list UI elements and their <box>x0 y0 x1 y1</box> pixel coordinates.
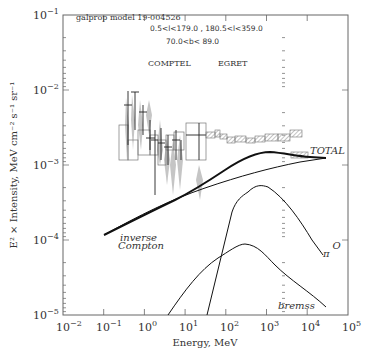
l-range-annotation: 0.5<l<179.0 , 180.5<l<359.0 <box>150 24 263 33</box>
svg-text:10−1: 10−1 <box>96 319 122 334</box>
plot-frame <box>63 15 348 315</box>
svg-text:10−2: 10−2 <box>33 82 59 97</box>
svg-text:104: 104 <box>301 319 320 334</box>
svg-text:10−4: 10−4 <box>33 232 59 247</box>
inverse-compton-label-2: Compton <box>118 240 164 251</box>
b-range-annotation: 70.0<b< 89.0 <box>166 37 219 46</box>
x-axis-title: Energy, MeV <box>173 337 239 348</box>
energy-spectrum-chart: 10−2 10−1 100 101 102 103 104 105 10−5 1… <box>0 0 365 352</box>
y-tick-labels: 10−5 10−4 10−3 10−2 10−1 <box>33 7 59 322</box>
inverse-compton-curve <box>104 158 326 235</box>
y-axis-title: E² × Intensity, MeV cm⁻² s⁻¹ sr⁻¹ <box>8 82 19 249</box>
svg-text:105: 105 <box>342 319 361 334</box>
y-axis-ticks <box>63 38 348 312</box>
svg-text:10−3: 10−3 <box>33 157 59 172</box>
bremss-label: bremss <box>278 300 315 311</box>
svg-text:10−5: 10−5 <box>33 307 59 322</box>
pi0-label: πO <box>322 240 341 259</box>
svg-text:101: 101 <box>179 319 198 334</box>
comptel-data <box>119 91 206 200</box>
total-curve <box>104 152 326 235</box>
model-annotation: galprop model 19-004526 <box>76 13 181 22</box>
svg-text:100: 100 <box>138 319 157 334</box>
svg-text:102: 102 <box>220 319 239 334</box>
svg-text:10−2: 10−2 <box>56 319 82 334</box>
x-tick-labels: 10−2 10−1 100 101 102 103 104 105 <box>56 319 361 334</box>
pi0-curve <box>207 186 323 315</box>
x-axis-ticks <box>104 15 308 315</box>
total-label: TOTAL <box>310 145 345 156</box>
svg-text:103: 103 <box>260 319 279 334</box>
comptel-label: COMPTEL <box>148 59 191 68</box>
egret-label: EGRET <box>218 59 248 68</box>
svg-text:10−1: 10−1 <box>33 7 59 22</box>
